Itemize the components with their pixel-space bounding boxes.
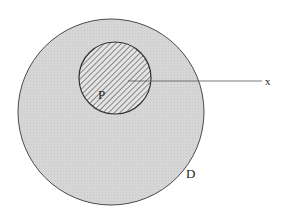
inner-region-p <box>79 42 151 114</box>
label-x: x <box>265 75 271 87</box>
label-d: D <box>186 166 195 181</box>
label-p: P <box>98 87 105 102</box>
region-diagram: P D x <box>0 0 285 217</box>
